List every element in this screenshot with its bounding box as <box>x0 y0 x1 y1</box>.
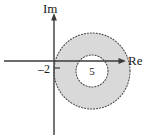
center-annotation-5: 5 <box>89 65 95 77</box>
real-axis-label: Re <box>128 53 143 68</box>
complex-plane-canvas: Im Re –2 5 <box>0 0 145 135</box>
tick-label-minus-2: –2 <box>37 62 50 76</box>
imaginary-axis-label: Im <box>43 1 57 16</box>
complex-plane-figure: Im Re –2 5 <box>0 0 145 135</box>
